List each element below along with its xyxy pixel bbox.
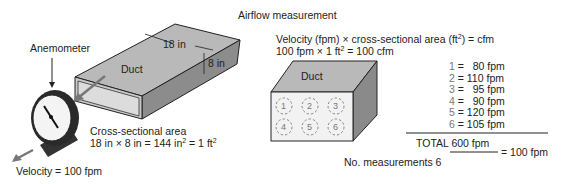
right-duct — [271, 61, 377, 141]
formula-line-1: Velocity (fpm) × cross-sectional area (f… — [276, 33, 494, 45]
measurement-count: No. measurements 6 — [344, 156, 441, 168]
grid-point-4: 4 — [281, 121, 286, 133]
duct-label: Duct — [121, 63, 143, 75]
area-formula: 18 in × 8 in = 144 in2 = 1 ft2 — [90, 137, 217, 149]
velocity-value: Velocity = 100 fpm — [16, 165, 102, 177]
average-value: = 100 fpm — [501, 146, 548, 158]
grid-point-2: 2 — [307, 100, 312, 112]
grid-point-5: 5 — [307, 121, 312, 133]
height-dimension: 8 in — [208, 57, 225, 69]
width-dimension: 18 in — [163, 38, 186, 50]
anemometer-icon — [31, 90, 79, 157]
formula-line-2: 100 fpm × 1 ft2 = 100 cfm — [276, 45, 394, 57]
area-title: Cross-sectional area — [90, 125, 186, 137]
left-duct — [75, 24, 240, 119]
diagram-title: Airflow measurement — [238, 9, 337, 21]
measurement-list: 1 = 80 fpm 2 = 110 fpm 3 = 95 fpm 4 = 90… — [449, 61, 505, 131]
anemometer-label: Anemometer — [30, 42, 90, 54]
grid-point-1: 1 — [281, 100, 286, 112]
right-duct-label: Duct — [301, 70, 323, 82]
measurement-row: 6 = 105 fpm — [449, 119, 505, 131]
total-value: TOTAL 600 fpm — [416, 137, 489, 149]
grid-point-3: 3 — [333, 100, 338, 112]
grid-point-6: 6 — [333, 121, 338, 133]
